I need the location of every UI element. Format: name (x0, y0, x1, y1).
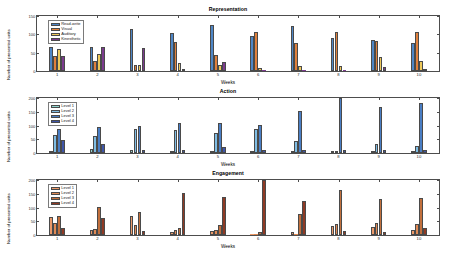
legend-item[interactable]: Kinesthetic (51, 37, 81, 41)
plot-area: 05010015012345678910 (36, 15, 440, 72)
bar[interactable] (262, 180, 266, 235)
x-tick-mark (298, 233, 299, 235)
bar-group (359, 180, 399, 235)
axes-frame: 05010015020012345678910 (36, 97, 440, 154)
bar[interactable] (178, 123, 182, 153)
panel-title: Representation (0, 6, 456, 12)
x-tick-mark (339, 180, 340, 182)
bar-group (359, 98, 399, 153)
bar-group (198, 98, 238, 153)
bar[interactable] (138, 126, 142, 153)
bar[interactable] (222, 147, 226, 153)
y-tick-label: 200 (29, 96, 36, 101)
legend-label: Kinesthetic (61, 37, 81, 41)
bar[interactable] (302, 150, 306, 153)
bar[interactable] (343, 150, 347, 153)
panel-title: Action (0, 88, 456, 94)
x-tick-mark (419, 233, 420, 235)
y-tick-label: 50 (31, 137, 36, 142)
bar[interactable] (423, 150, 427, 153)
bar[interactable] (419, 103, 423, 153)
x-tick-label: 1 (56, 236, 58, 241)
bar[interactable] (423, 69, 427, 71)
y-tick-label: 50 (31, 50, 36, 55)
bar[interactable] (222, 197, 226, 235)
x-tick-mark (138, 16, 139, 18)
y-tick-label: 50 (31, 219, 36, 224)
bar[interactable] (101, 47, 105, 71)
x-tick-label: 9 (378, 154, 380, 159)
x-tick-mark (178, 16, 179, 18)
x-tick-mark (379, 151, 380, 153)
y-axis-label: Number of presented units (6, 111, 11, 162)
bar[interactable] (302, 201, 306, 235)
x-tick-label: 5 (217, 236, 219, 241)
x-tick-mark (258, 98, 259, 100)
bar[interactable] (142, 231, 146, 235)
bar-group (238, 180, 278, 235)
y-tick-label: 200 (29, 178, 36, 183)
chart-legend[interactable]: Level 1Level 2Level 3Level 4 (48, 102, 77, 126)
bar[interactable] (423, 228, 427, 235)
x-tick-mark (419, 151, 420, 153)
bar[interactable] (302, 70, 306, 71)
x-tick-label: 4 (177, 236, 179, 241)
x-tick-label: 6 (257, 72, 259, 77)
bar[interactable] (142, 150, 146, 153)
bar[interactable] (61, 228, 65, 235)
y-axis-label: Number of presented units (6, 193, 11, 244)
bar[interactable] (339, 98, 343, 153)
x-tick-label: 10 (417, 236, 422, 241)
legend-swatch (51, 38, 60, 41)
x-tick-mark (339, 98, 340, 100)
x-tick-mark (178, 98, 179, 100)
bar[interactable] (383, 67, 387, 71)
bar[interactable] (262, 70, 266, 71)
bar[interactable] (262, 150, 266, 153)
bar-group (278, 16, 318, 71)
bar[interactable] (379, 107, 383, 153)
x-tick-mark (97, 180, 98, 182)
bar[interactable] (182, 150, 186, 153)
y-tick-mark (37, 235, 39, 236)
x-tick-mark (419, 16, 420, 18)
x-tick-mark (298, 180, 299, 182)
bar[interactable] (254, 32, 258, 71)
y-tick-label: 100 (29, 123, 36, 128)
x-tick-mark (218, 69, 219, 71)
x-axis-label: Weeks (0, 244, 456, 249)
legend-swatch (51, 105, 60, 108)
x-tick-mark (138, 69, 139, 71)
bar[interactable] (383, 150, 387, 153)
bar[interactable] (182, 69, 186, 71)
bar[interactable] (101, 144, 105, 153)
bar[interactable] (182, 193, 186, 235)
axes-frame: 05010015012345678910 (36, 15, 440, 72)
bar[interactable] (222, 62, 226, 72)
bar[interactable] (343, 231, 347, 235)
legend-item[interactable]: Level 4 (51, 201, 75, 205)
x-tick-mark (419, 69, 420, 71)
bar[interactable] (142, 48, 146, 71)
bar[interactable] (379, 199, 383, 235)
chart-legend[interactable]: Read-writeVisualAuditoryKinesthetic (48, 20, 84, 44)
bar-group (158, 180, 198, 235)
x-tick-mark (97, 16, 98, 18)
legend-item[interactable]: Level 4 (51, 119, 75, 123)
y-tick-mark (437, 71, 439, 72)
bar[interactable] (343, 70, 347, 71)
bar[interactable] (339, 190, 343, 235)
chart-legend[interactable]: Level 1Level 2Level 3Level 4 (48, 184, 77, 208)
x-tick-label: 4 (177, 72, 179, 77)
x-tick-label: 10 (417, 154, 422, 159)
legend-swatch (51, 202, 60, 205)
bar[interactable] (61, 140, 65, 153)
x-tick-mark (379, 16, 380, 18)
bar[interactable] (101, 218, 105, 235)
bar[interactable] (298, 111, 302, 153)
bar[interactable] (61, 56, 65, 71)
bar[interactable] (383, 232, 387, 235)
x-tick-mark (97, 69, 98, 71)
x-tick-mark (218, 16, 219, 18)
x-tick-label: 3 (136, 72, 138, 77)
